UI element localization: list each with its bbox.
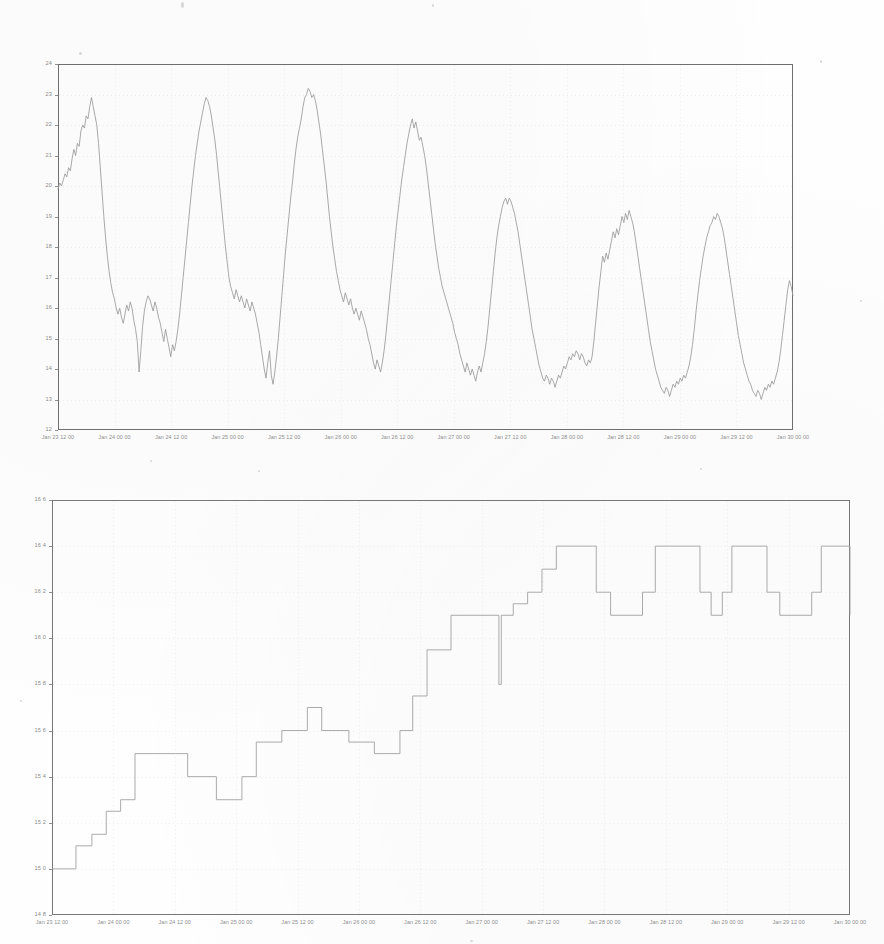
x-axis-tick-label: Jan 27 00 00: [466, 920, 498, 925]
gridline-horizontal: [59, 247, 792, 248]
gridline-horizontal: [53, 731, 849, 732]
scan-artifact: [820, 60, 822, 63]
x-axis-tick-label: Jan 26 00 00: [343, 920, 375, 925]
x-axis-tick-label: Jan 23 12 00: [42, 435, 74, 440]
y-axis-tick-mark: [55, 278, 58, 279]
gridline-horizontal: [59, 217, 792, 218]
y-axis-tick-label: 15 4: [0, 774, 46, 780]
gridline-vertical: [113, 501, 114, 914]
y-axis-tick-label: 15: [0, 336, 52, 342]
scan-artifact: [470, 940, 473, 942]
x-axis-tick-label: Jan 28 12 00: [650, 920, 682, 925]
x-axis-tick-label: Jan 29 00 00: [664, 435, 696, 440]
x-axis-tick-label: Jan 30 00 00: [834, 920, 866, 925]
y-axis-tick-label: 15 2: [0, 820, 46, 826]
y-axis-tick-label: 16 4: [0, 543, 46, 549]
top-chart: 24232221201918171615141312Jan 23 12 00Ja…: [0, 0, 884, 462]
bottom-chart: 16 616 416 216 015 815 615 415 215 014 8…: [0, 462, 884, 944]
y-axis-tick-mark: [55, 247, 58, 248]
y-axis-tick-mark: [55, 308, 58, 309]
y-axis-tick-mark: [55, 64, 58, 65]
y-axis-tick-mark: [55, 217, 58, 218]
gridline-vertical: [510, 65, 511, 429]
y-axis-tick-mark: [55, 125, 58, 126]
y-axis-tick-label: 12: [0, 427, 52, 433]
scan-artifact: [258, 470, 260, 472]
gridline-horizontal: [53, 823, 849, 824]
y-axis-tick-mark: [49, 546, 52, 547]
y-axis-tick-mark: [55, 369, 58, 370]
x-axis-tick-label: Jan 26 12 00: [381, 435, 413, 440]
gridline-horizontal: [59, 95, 792, 96]
gridline-horizontal: [59, 369, 792, 370]
y-axis-tick-label: 14 8: [0, 912, 46, 918]
y-axis-tick-mark: [49, 731, 52, 732]
gridline-vertical: [284, 65, 285, 429]
y-axis-tick-mark: [55, 156, 58, 157]
y-axis-tick-label: 18: [0, 244, 52, 250]
y-axis-tick-label: 16 2: [0, 589, 46, 595]
gridline-horizontal: [59, 278, 792, 279]
gridline-vertical: [666, 501, 667, 914]
y-axis-tick-mark: [49, 638, 52, 639]
x-axis-tick-label: Jan 25 12 00: [281, 920, 313, 925]
y-axis-tick-label: 20: [0, 183, 52, 189]
y-axis-tick-label: 15 6: [0, 728, 46, 734]
x-axis-tick-label: Jan 27 12 00: [494, 435, 526, 440]
scanned-page: 24232221201918171615141312Jan 23 12 00Ja…: [0, 0, 884, 944]
y-axis-tick-label: 13: [0, 397, 52, 403]
x-axis-tick-label: Jan 28 00 00: [588, 920, 620, 925]
y-axis-tick-label: 21: [0, 153, 52, 159]
x-axis-tick-label: Jan 24 12 00: [159, 920, 191, 925]
y-axis-tick-mark: [49, 915, 52, 916]
x-axis-tick-label: Jan 28 12 00: [607, 435, 639, 440]
gridline-vertical: [454, 65, 455, 429]
y-axis-tick-label: 19: [0, 214, 52, 220]
y-axis-tick-mark: [49, 823, 52, 824]
y-axis-tick-label: 16 0: [0, 636, 46, 642]
gridline-vertical: [736, 65, 737, 429]
gridline-vertical: [228, 65, 229, 429]
y-axis-tick-mark: [55, 339, 58, 340]
y-axis-tick-mark: [55, 430, 58, 431]
scan-artifact: [181, 2, 184, 8]
gridline-vertical: [397, 65, 398, 429]
y-axis-tick-mark: [49, 684, 52, 685]
x-axis-tick-label: Jan 26 00 00: [325, 435, 357, 440]
y-axis-tick-label: 16: [0, 305, 52, 311]
gridline-vertical: [789, 501, 790, 914]
x-axis-tick-label: Jan 29 12 00: [720, 435, 752, 440]
y-axis-tick-mark: [49, 777, 52, 778]
gridline-vertical: [567, 65, 568, 429]
gridline-vertical: [115, 65, 116, 429]
gridline-horizontal: [59, 400, 792, 401]
x-axis-tick-label: Jan 30 00 00: [777, 435, 809, 440]
gridline-horizontal: [53, 546, 849, 547]
y-axis-tick-label: 22: [0, 122, 52, 128]
gridline-vertical: [420, 501, 421, 914]
gridline-horizontal: [59, 125, 792, 126]
x-axis-tick-label: Jan 27 00 00: [438, 435, 470, 440]
gridline-horizontal: [53, 638, 849, 639]
gridline-vertical: [175, 501, 176, 914]
gridline-vertical: [341, 65, 342, 429]
scan-artifact: [20, 700, 22, 702]
y-axis-tick-mark: [55, 95, 58, 96]
y-axis-tick-label: 15 8: [0, 682, 46, 688]
gridline-vertical: [482, 501, 483, 914]
gridline-vertical: [236, 501, 237, 914]
gridline-vertical: [171, 65, 172, 429]
y-axis-tick-label: 23: [0, 92, 52, 98]
x-axis-tick-label: Jan 25 12 00: [268, 435, 300, 440]
x-axis-tick-label: Jan 27 12 00: [527, 920, 559, 925]
gridline-vertical: [604, 501, 605, 914]
x-axis-tick-label: Jan 29 00 00: [711, 920, 743, 925]
y-axis-tick-mark: [49, 500, 52, 501]
scan-artifact: [432, 4, 434, 7]
gridline-vertical: [680, 65, 681, 429]
y-axis-tick-label: 14: [0, 366, 52, 372]
y-axis-tick-label: 24: [0, 61, 52, 67]
gridline-vertical: [727, 501, 728, 914]
x-axis-tick-label: Jan 25 00 00: [211, 435, 243, 440]
y-axis-tick-mark: [49, 592, 52, 593]
